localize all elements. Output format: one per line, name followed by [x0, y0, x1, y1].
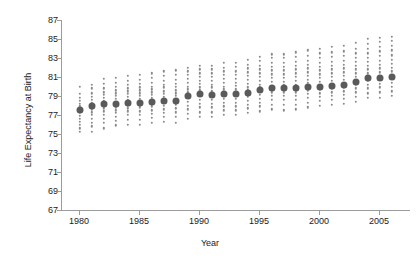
data-point-small — [295, 51, 297, 53]
data-point-small — [379, 86, 381, 88]
data-point-small — [103, 114, 105, 116]
data-point-small — [331, 103, 333, 105]
data-point-mean — [77, 107, 84, 114]
data-point-small — [259, 110, 261, 112]
data-point-small — [391, 54, 393, 56]
data-point-small — [175, 116, 177, 118]
life-expectancy-scatter-chart: Life Expectancy at Birth 676971737577798… — [0, 0, 420, 262]
data-point-small — [235, 74, 237, 76]
data-point-small — [331, 51, 333, 53]
data-point-small — [127, 110, 129, 112]
data-point-small — [199, 72, 201, 74]
data-point-small — [151, 105, 153, 107]
data-point-small — [343, 44, 345, 46]
data-point-small — [343, 98, 345, 100]
data-point-small — [79, 123, 81, 125]
data-point-small — [259, 60, 261, 62]
data-point-small — [271, 103, 273, 105]
data-point-small — [391, 81, 393, 83]
data-point-small — [367, 68, 369, 70]
data-point-small — [343, 50, 345, 52]
data-point-small — [223, 78, 225, 80]
data-point-small — [271, 99, 273, 101]
data-point-small — [319, 62, 321, 64]
plot-area — [62, 20, 410, 210]
data-point-small — [379, 60, 381, 62]
data-point-small — [319, 104, 321, 106]
data-point-mean — [389, 74, 396, 81]
data-point-small — [211, 111, 213, 113]
data-point-mean — [245, 90, 252, 97]
y-tick-mark — [57, 20, 62, 21]
data-point-mean — [137, 99, 144, 106]
data-point-small — [247, 67, 249, 69]
data-point-small — [115, 81, 117, 83]
data-point-small — [79, 131, 81, 133]
x-tick-label: 1980 — [69, 216, 89, 226]
data-point-small — [391, 66, 393, 68]
data-point-small — [391, 36, 393, 38]
data-point-small — [295, 64, 297, 66]
data-point-small — [211, 72, 213, 74]
x-tick-mark — [139, 211, 140, 215]
x-tick-label: 2000 — [309, 216, 329, 226]
data-point-small — [271, 81, 273, 83]
data-point-small — [175, 111, 177, 113]
data-point-small — [175, 74, 177, 76]
data-point-small — [283, 77, 285, 79]
data-point-small — [307, 60, 309, 62]
data-point-small — [379, 91, 381, 93]
data-point-small — [295, 108, 297, 110]
x-axis-tick-labels: 198019851990199520002005 — [61, 211, 410, 233]
data-point-small — [355, 64, 357, 66]
data-point-small — [331, 45, 333, 47]
data-point-small — [151, 77, 153, 79]
data-point-small — [367, 38, 369, 40]
data-point-small — [211, 99, 213, 101]
x-tick-mark — [79, 211, 80, 215]
data-point-small — [391, 59, 393, 61]
data-point-small — [283, 103, 285, 105]
data-point-small — [91, 92, 93, 94]
data-point-small — [367, 61, 369, 63]
data-point-mean — [317, 83, 324, 90]
data-point-small — [367, 47, 369, 49]
data-point-small — [271, 53, 273, 55]
data-point-small — [103, 118, 105, 120]
data-point-small — [379, 41, 381, 43]
data-point-small — [223, 98, 225, 100]
data-point-small — [163, 75, 165, 77]
data-point-small — [235, 109, 237, 111]
data-point-small — [319, 65, 321, 67]
data-point-small — [379, 37, 381, 39]
data-point-mean — [173, 97, 180, 104]
data-point-small — [115, 119, 117, 121]
data-point-mean — [161, 97, 168, 104]
data-point-small — [127, 80, 129, 82]
data-point-small — [331, 76, 333, 78]
data-point-small — [91, 114, 93, 116]
data-point-small — [307, 106, 309, 108]
data-point-small — [331, 91, 333, 93]
data-point-small — [319, 52, 321, 54]
data-point-small — [355, 72, 357, 74]
data-point-mean — [377, 74, 384, 81]
data-point-small — [319, 73, 321, 75]
data-point-small — [127, 75, 129, 77]
data-point-small — [211, 80, 213, 82]
data-point-small — [163, 80, 165, 82]
x-tick-label: 1985 — [129, 216, 149, 226]
y-axis-title: Life Expectancy at Birth — [23, 30, 33, 210]
data-point-small — [331, 61, 333, 63]
data-point-small — [319, 47, 321, 49]
data-point-mean — [209, 92, 216, 99]
data-point-mean — [281, 85, 288, 92]
data-point-small — [343, 63, 345, 65]
data-point-small — [379, 67, 381, 69]
data-point-small — [283, 62, 285, 64]
data-point-small — [103, 78, 105, 80]
data-point-small — [247, 107, 249, 109]
data-point-small — [295, 61, 297, 63]
data-point-mean — [341, 81, 348, 88]
data-point-mean — [257, 87, 264, 94]
